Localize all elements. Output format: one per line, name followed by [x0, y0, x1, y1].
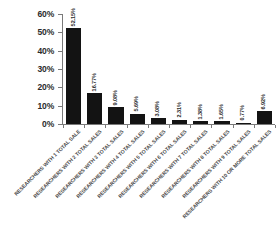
x-axis-category-label: RESEARCHERS WITH 4 TOTAL SALES [75, 129, 145, 199]
bar-value-label: 1.38% [198, 104, 204, 119]
x-axis-tick-mark [105, 125, 106, 128]
bar[interactable] [193, 121, 208, 124]
x-axis-tick-mark [148, 125, 149, 128]
bar[interactable] [130, 114, 145, 124]
x-axis-tick-mark [211, 125, 212, 128]
x-axis-tick-mark [233, 125, 234, 128]
bar-group: 6.92% [254, 14, 275, 124]
x-axis-tick-mark [84, 125, 85, 128]
bar[interactable] [257, 111, 272, 124]
bar-chart: 60%50%40%30%20%10%0% 52.15%16.77%9.08%5.… [0, 0, 280, 245]
x-axis-category-label: RESEARCHERS WITH 2 TOTAL SALES [33, 129, 103, 199]
bar[interactable] [151, 118, 166, 124]
x-axis-tick-mark [190, 125, 191, 128]
x-axis-category-label: RESEARCHERS WITH 1 TOTAL SALE [14, 129, 82, 197]
bar-value-label: 16.77% [92, 73, 98, 91]
bar-value-label: 52.15% [71, 8, 77, 26]
bar-group: 52.15% [63, 14, 84, 124]
y-axis-tick-mark [58, 69, 62, 70]
bar-value-label: 0.77% [240, 105, 246, 120]
bar[interactable] [172, 120, 187, 124]
bar-group: 16.77% [84, 14, 105, 124]
bar-value-label: 6.92% [262, 94, 268, 109]
y-axis-tick-label: 20% [38, 82, 54, 92]
x-axis-category-label: RESEARCHERS WITH 3 TOTAL SALES [54, 129, 124, 199]
x-axis-tick-mark [254, 125, 255, 128]
x-axis-tick-mark [63, 125, 64, 128]
y-axis-tick-label: 50% [38, 27, 54, 37]
y-axis-tick-mark [58, 124, 62, 125]
x-axis-tick-mark [275, 125, 276, 128]
bar-group: 1.38% [190, 14, 211, 124]
bar-value-label: 2.31% [177, 102, 183, 117]
x-axis-tick-mark [127, 125, 128, 128]
bar-value-label: 3.08% [156, 101, 162, 116]
bar-value-label: 1.65% [219, 104, 225, 119]
plot-area: 52.15%16.77%9.08%5.69%3.08%2.31%1.38%1.6… [63, 14, 275, 124]
y-axis-tick-mark [58, 106, 62, 107]
bar-group: 2.31% [169, 14, 190, 124]
y-axis: 60%50%40%30%20%10%0% [0, 14, 58, 124]
bar-group: 0.77% [233, 14, 254, 124]
bar-group: 9.08% [105, 14, 126, 124]
bar-value-label: 5.69% [134, 96, 140, 111]
bar[interactable] [108, 107, 123, 124]
y-axis-tick-label: 40% [38, 46, 54, 56]
y-axis-tick-mark [58, 32, 62, 33]
x-axis-category-label: RESEARCHERS WITH 8 TOTAL SALES [160, 129, 230, 199]
y-axis-tick-label: 30% [38, 64, 54, 74]
y-axis-tick-label: 0% [42, 119, 54, 129]
x-axis-category-label: RESEARCHERS WITH 10 OR MORE TOTAL SALES [182, 129, 273, 220]
y-axis-tick-mark [58, 87, 62, 88]
bar-group: 1.65% [211, 14, 232, 124]
bar[interactable] [236, 123, 251, 124]
y-axis-tick-mark [58, 51, 62, 52]
bar-group: 3.08% [148, 14, 169, 124]
y-axis-tick-label: 60% [38, 9, 54, 19]
x-axis-category-label: RESEARCHERS WITH 6 TOTAL SALES [118, 129, 188, 199]
bar[interactable] [214, 121, 229, 124]
bar[interactable] [66, 28, 81, 124]
x-axis-category-label: RESEARCHERS WITH 9 TOTAL SALES [181, 129, 251, 199]
y-axis-tick-mark [58, 14, 62, 15]
y-axis-tick-label: 10% [38, 101, 54, 111]
bar-value-label: 9.08% [113, 90, 119, 105]
x-axis-category-label: RESEARCHERS WITH 7 TOTAL SALES [139, 129, 209, 199]
bar[interactable] [87, 93, 102, 124]
bar-group: 5.69% [127, 14, 148, 124]
x-axis-tick-mark [169, 125, 170, 128]
x-axis-category-label: RESEARCHERS WITH 5 TOTAL SALES [97, 129, 167, 199]
